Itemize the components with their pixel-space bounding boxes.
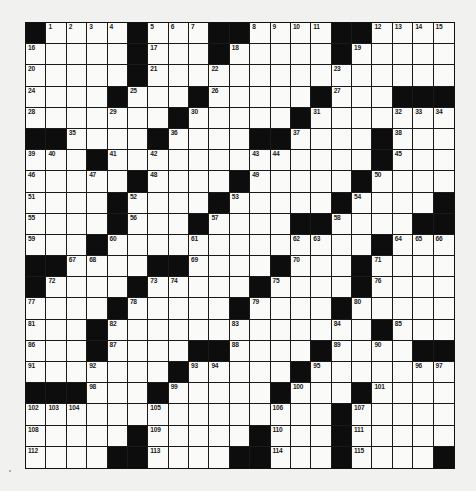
grid-cell[interactable]: [311, 447, 331, 468]
grid-cell[interactable]: [434, 383, 454, 404]
grid-cell[interactable]: [434, 256, 454, 277]
grid-cell[interactable]: [352, 320, 372, 341]
grid-cell[interactable]: [46, 193, 66, 214]
grid-cell[interactable]: [67, 150, 87, 171]
grid-cell[interactable]: [230, 362, 250, 383]
grid-cell[interactable]: [393, 44, 413, 65]
grid-cell[interactable]: [46, 87, 66, 108]
grid-cell[interactable]: 82: [108, 320, 128, 341]
grid-cell[interactable]: [189, 383, 209, 404]
grid-cell[interactable]: 68: [87, 256, 107, 277]
grid-cell[interactable]: [372, 214, 392, 235]
grid-cell[interactable]: [393, 171, 413, 192]
grid-cell[interactable]: 113: [148, 447, 168, 468]
grid-cell[interactable]: [46, 108, 66, 129]
grid-cell[interactable]: [148, 214, 168, 235]
grid-cell[interactable]: [271, 214, 291, 235]
grid-cell[interactable]: [311, 320, 331, 341]
grid-cell[interactable]: [108, 65, 128, 86]
grid-cell[interactable]: [230, 129, 250, 150]
grid-cell[interactable]: [230, 383, 250, 404]
grid-cell[interactable]: [250, 341, 270, 362]
grid-cell[interactable]: 29: [108, 108, 128, 129]
grid-cell[interactable]: [169, 298, 189, 319]
grid-cell[interactable]: [128, 235, 148, 256]
grid-cell[interactable]: 99: [169, 383, 189, 404]
grid-cell[interactable]: 6: [169, 23, 189, 44]
grid-cell[interactable]: [148, 193, 168, 214]
grid-cell[interactable]: [434, 65, 454, 86]
grid-cell[interactable]: [87, 129, 107, 150]
grid-cell[interactable]: [271, 171, 291, 192]
grid-cell[interactable]: 37: [291, 129, 311, 150]
grid-cell[interactable]: [169, 65, 189, 86]
grid-cell[interactable]: 51: [26, 193, 46, 214]
grid-cell[interactable]: 14: [413, 23, 433, 44]
grid-cell[interactable]: [108, 404, 128, 425]
grid-cell[interactable]: 26: [209, 87, 229, 108]
grid-cell[interactable]: [413, 404, 433, 425]
grid-cell[interactable]: [230, 404, 250, 425]
grid-cell[interactable]: [87, 87, 107, 108]
grid-cell[interactable]: [311, 383, 331, 404]
grid-cell[interactable]: 79: [250, 298, 270, 319]
grid-cell[interactable]: 49: [250, 171, 270, 192]
grid-cell[interactable]: [352, 65, 372, 86]
grid-cell[interactable]: [250, 193, 270, 214]
grid-cell[interactable]: 70: [291, 256, 311, 277]
grid-cell[interactable]: [311, 150, 331, 171]
grid-cell[interactable]: [332, 108, 352, 129]
grid-cell[interactable]: 101: [372, 383, 392, 404]
grid-cell[interactable]: 78: [128, 298, 148, 319]
grid-cell[interactable]: 5: [148, 23, 168, 44]
grid-cell[interactable]: 97: [434, 362, 454, 383]
grid-cell[interactable]: 85: [393, 320, 413, 341]
grid-cell[interactable]: 74: [169, 277, 189, 298]
grid-cell[interactable]: 67: [67, 256, 87, 277]
grid-cell[interactable]: 34: [434, 108, 454, 129]
grid-cell[interactable]: [291, 193, 311, 214]
grid-cell[interactable]: 92: [87, 362, 107, 383]
grid-cell[interactable]: [250, 87, 270, 108]
grid-cell[interactable]: [108, 426, 128, 447]
grid-cell[interactable]: [189, 320, 209, 341]
grid-cell[interactable]: [87, 277, 107, 298]
grid-cell[interactable]: 87: [108, 341, 128, 362]
grid-cell[interactable]: [271, 108, 291, 129]
grid-cell[interactable]: [271, 87, 291, 108]
grid-cell[interactable]: [209, 383, 229, 404]
grid-cell[interactable]: 63: [311, 235, 331, 256]
grid-cell[interactable]: 8: [250, 23, 270, 44]
grid-cell[interactable]: [128, 404, 148, 425]
grid-cell[interactable]: [230, 214, 250, 235]
grid-cell[interactable]: [393, 404, 413, 425]
grid-cell[interactable]: 69: [189, 256, 209, 277]
grid-cell[interactable]: 24: [26, 87, 46, 108]
grid-cell[interactable]: 84: [332, 320, 352, 341]
grid-cell[interactable]: [148, 108, 168, 129]
grid-cell[interactable]: 89: [332, 341, 352, 362]
grid-cell[interactable]: [87, 65, 107, 86]
grid-cell[interactable]: [372, 404, 392, 425]
grid-cell[interactable]: 59: [26, 235, 46, 256]
grid-cell[interactable]: 108: [26, 426, 46, 447]
grid-cell[interactable]: 102: [26, 404, 46, 425]
grid-cell[interactable]: [393, 193, 413, 214]
grid-cell[interactable]: [209, 108, 229, 129]
grid-cell[interactable]: [169, 44, 189, 65]
grid-cell[interactable]: [148, 235, 168, 256]
grid-cell[interactable]: 109: [148, 426, 168, 447]
grid-cell[interactable]: [230, 277, 250, 298]
grid-cell[interactable]: [332, 256, 352, 277]
grid-cell[interactable]: [372, 298, 392, 319]
grid-cell[interactable]: [148, 341, 168, 362]
grid-cell[interactable]: [291, 150, 311, 171]
grid-cell[interactable]: 2: [67, 23, 87, 44]
grid-cell[interactable]: [189, 193, 209, 214]
grid-cell[interactable]: [189, 65, 209, 86]
grid-cell[interactable]: [67, 341, 87, 362]
grid-cell[interactable]: [332, 277, 352, 298]
grid-cell[interactable]: [250, 320, 270, 341]
grid-cell[interactable]: [271, 65, 291, 86]
grid-cell[interactable]: [352, 87, 372, 108]
